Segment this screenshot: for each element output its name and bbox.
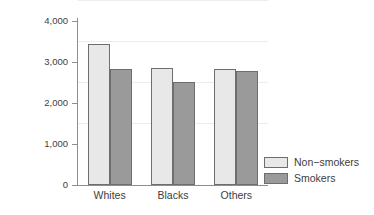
bar bbox=[151, 68, 173, 185]
x-tick-label: Whites bbox=[75, 189, 145, 201]
x-tick-label: Blacks bbox=[138, 189, 208, 201]
chart-legend: Non−smokersSmokers bbox=[264, 155, 359, 187]
y-tick-label: 4,000 bbox=[28, 15, 68, 26]
legend-swatch-icon bbox=[264, 173, 288, 184]
gridline bbox=[78, 0, 268, 1]
legend-item[interactable]: Smokers bbox=[264, 171, 359, 185]
y-tick-mark bbox=[72, 103, 77, 104]
y-tick-mark bbox=[72, 62, 77, 63]
bar bbox=[173, 82, 195, 185]
bar bbox=[214, 69, 236, 185]
bar bbox=[236, 71, 258, 185]
y-tick-mark bbox=[72, 21, 77, 22]
bar bbox=[110, 69, 132, 185]
legend-label: Non−smokers bbox=[294, 156, 359, 168]
plot-area bbox=[78, 21, 268, 185]
y-tick-mark bbox=[72, 185, 77, 186]
y-tick-label: 3,000 bbox=[28, 56, 68, 67]
legend-swatch-icon bbox=[264, 157, 288, 168]
y-tick-mark bbox=[72, 144, 77, 145]
legend-label: Smokers bbox=[294, 172, 335, 184]
y-tick-label: 1,000 bbox=[28, 138, 68, 149]
y-tick-label: 2,000 bbox=[28, 97, 68, 108]
x-tick-label: Others bbox=[201, 189, 271, 201]
y-tick-label: 0 bbox=[28, 179, 68, 190]
legend-item[interactable]: Non−smokers bbox=[264, 155, 359, 169]
bar bbox=[88, 44, 110, 185]
bar-chart: Mean birthweight (grams) 01,0002,0003,00… bbox=[0, 0, 374, 215]
x-axis-line bbox=[78, 185, 268, 186]
